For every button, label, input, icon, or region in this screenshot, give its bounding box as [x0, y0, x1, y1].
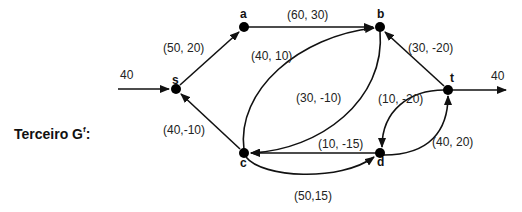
edge-label: (30, -20): [408, 41, 453, 55]
edge-c-s: (40,-10): [163, 94, 240, 149]
edge-label: (60, 30): [287, 8, 328, 22]
node-label: c: [240, 156, 247, 170]
edge-label: 40: [120, 68, 134, 82]
edge-c-b: (40, 10): [243, 28, 374, 150]
node-label: b: [377, 7, 384, 21]
node-label: t: [450, 71, 454, 85]
edge-label: (30, -10): [296, 91, 341, 105]
node-label: s: [172, 73, 179, 87]
node-s: s: [171, 73, 181, 94]
edge-label: 40: [491, 69, 505, 83]
edge-label: (10, -15): [318, 137, 363, 151]
edge-c-d: (50,15): [246, 157, 374, 203]
edge-label: (40, 10): [251, 49, 292, 63]
edge-a-b: (60, 30): [248, 8, 373, 27]
edge-source-s: 40: [118, 68, 169, 89]
edge-label: (10, -20): [378, 92, 423, 106]
edge-label: (40, 20): [432, 135, 473, 149]
node-label: d: [377, 155, 384, 169]
node-a: a: [239, 7, 249, 32]
node-d: d: [375, 148, 385, 169]
flow-network-diagram: 40 (50, 20) (60, 30) (40, 10) (30, -10) …: [0, 0, 522, 212]
edge-label: (50,15): [294, 189, 332, 203]
edge-label: (50, 20): [163, 41, 204, 55]
node-label: a: [240, 7, 247, 21]
node-t: t: [443, 71, 454, 95]
edge-t-sink: 40: [452, 69, 506, 90]
edge-label: (40,-10): [163, 123, 205, 137]
edge-t-b: (30, -20): [385, 32, 453, 86]
node-b: b: [375, 7, 385, 32]
